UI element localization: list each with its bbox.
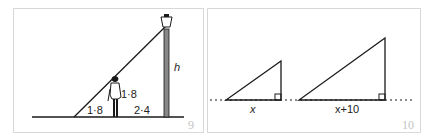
large-base-label: x+10	[335, 103, 359, 115]
person-icon	[108, 77, 121, 118]
figure-number: 9	[188, 118, 194, 132]
lamp-icon	[161, 17, 172, 27]
shadow-length-label: 1·8	[87, 104, 103, 116]
right-angle-marker-large	[379, 94, 385, 100]
small-base-label: x	[249, 103, 256, 115]
lamp-height-label: h	[174, 61, 180, 73]
right-angle-marker-small	[275, 94, 281, 100]
small-right-triangle	[226, 61, 281, 100]
distance-label: 2·4	[134, 104, 150, 116]
large-right-triangle	[299, 38, 385, 100]
figure-9-diagram: 1·8 1·8 2·4 h 9	[14, 9, 205, 134]
lamp-post	[164, 29, 169, 117]
figure-number: 10	[402, 118, 414, 132]
person-height-label: 1·8	[121, 88, 137, 100]
figure-10-diagram: x x+10 10	[208, 9, 422, 134]
lamp-cap	[164, 14, 169, 17]
figure-9-panel: 1·8 1·8 2·4 h 9	[13, 8, 204, 133]
figure-10-panel: x x+10 10	[207, 8, 421, 133]
